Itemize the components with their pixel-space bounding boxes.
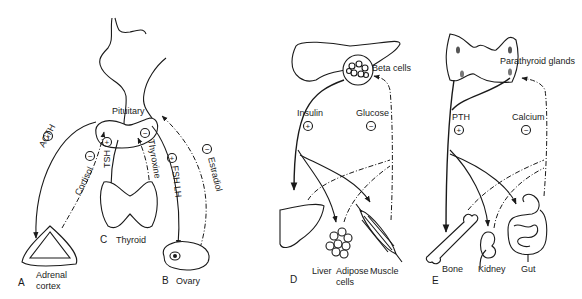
svg-text:Thyroxine: Thyroxine — [146, 139, 163, 180]
pth-to-bone-arrow — [446, 80, 454, 232]
svg-text:Estradiol: Estradiol — [206, 156, 224, 192]
liver-illustration — [280, 204, 324, 247]
panel-a-letter: A — [18, 277, 25, 288]
cortisol-label: Cortisol — [73, 165, 95, 197]
insulin-label: Insulin — [297, 108, 323, 118]
svg-text:TSH: TSH — [102, 150, 112, 168]
svg-text:+: + — [306, 122, 311, 131]
pth-label: PTH — [452, 112, 470, 122]
thyroxine-label: Thyroxine — [146, 139, 163, 180]
thyroid-illustration — [101, 182, 158, 228]
bone-illustration — [426, 214, 477, 263]
calcium-feedback-arrow — [522, 78, 547, 196]
adipose-label: Adipose — [336, 266, 369, 276]
panel-b-letter: B — [162, 275, 169, 286]
svg-text:−: − — [524, 126, 529, 135]
glucose-label: Glucose — [356, 108, 389, 118]
cells-label: cells — [336, 277, 355, 287]
pituitary-label: Pituitary — [112, 106, 145, 116]
muscle-illustration — [356, 204, 402, 262]
cortex-label: cortex — [36, 281, 61, 291]
adipose-cells-illustration — [326, 228, 352, 258]
adrenal-cortex-illustration — [22, 226, 77, 266]
kidney-illustration — [480, 232, 495, 268]
thyroid-label: Thyroid — [116, 235, 146, 245]
svg-text:−: − — [88, 152, 93, 161]
svg-text:+: + — [457, 126, 462, 135]
ovary-illustration — [163, 242, 209, 270]
insulin-to-muscle-arrow — [300, 155, 370, 202]
calcium-label: Calcium — [512, 112, 545, 122]
liver-label: Liver — [312, 266, 332, 276]
svg-text:−: − — [205, 145, 210, 154]
svg-text:−: − — [369, 122, 374, 131]
beta-cells-label: Beta cells — [372, 63, 412, 73]
parathyroid-glands-label: Parathyroid glands — [500, 56, 576, 66]
estradiol-feedback-arrow — [162, 116, 206, 248]
glucose-from-liver — [308, 160, 390, 200]
gut-illustration — [508, 194, 547, 262]
adrenal-label: Adrenal — [36, 270, 67, 280]
kidney-label: Kidney — [478, 264, 506, 274]
svg-text:+: + — [105, 138, 110, 147]
panel-c-letter: C — [100, 234, 107, 245]
panel-e-letter: E — [432, 275, 439, 286]
endocrine-feedback-diagram: Pituitary ACTH + Cortisol − TSH + Thyrox… — [0, 0, 582, 299]
fsh-lh-label: FSH LH — [170, 165, 183, 198]
gut-label: Gut — [521, 264, 536, 274]
glucose-feedback-arrow — [374, 76, 392, 220]
svg-text:Cortisol: Cortisol — [73, 165, 95, 197]
muscle-label: Muscle — [370, 266, 399, 276]
ovary-label: Ovary — [176, 276, 201, 286]
panel-d-letter: D — [290, 274, 297, 285]
tsh-label: TSH — [102, 150, 112, 168]
estradiol-label: Estradiol — [206, 156, 224, 192]
svg-text:−: − — [143, 129, 148, 138]
svg-text:+: + — [170, 154, 175, 163]
beta-cells-islet — [343, 55, 373, 85]
svg-text:+: + — [46, 132, 51, 141]
bone-label: Bone — [442, 264, 463, 274]
svg-text:FSH LH: FSH LH — [170, 165, 183, 198]
